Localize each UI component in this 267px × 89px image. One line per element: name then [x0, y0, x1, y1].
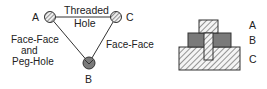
node-label-c: C [126, 11, 134, 23]
edge-label-peg-hole: Peg-Hole [12, 56, 54, 67]
node-label-a: A [32, 11, 39, 23]
edge-label-face-face-left: Face-Face [11, 34, 59, 45]
assembly-diagram: A C B Threaded Hole Face-Face and Peg-Ho… [0, 0, 267, 89]
assembly-label-a: A [249, 19, 256, 31]
edge-label-face-face-right: Face-Face [106, 39, 154, 50]
node-a [45, 12, 56, 23]
part-a-peg-head [199, 20, 218, 33]
edge-label-hole: Hole [74, 17, 96, 29]
assembly-label-c: C [249, 53, 257, 65]
node-b [83, 57, 95, 69]
node-label-b: B [85, 73, 92, 85]
node-c [111, 12, 122, 23]
edge-label-and: and [21, 45, 38, 56]
assembly-label-b: B [249, 34, 256, 46]
assembly-cross-section [179, 20, 240, 70]
part-a-peg-shaft [204, 33, 213, 60]
edge-label-threaded: Threaded [64, 4, 109, 16]
